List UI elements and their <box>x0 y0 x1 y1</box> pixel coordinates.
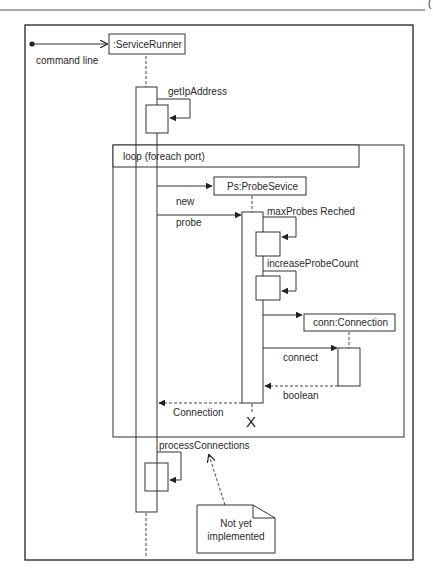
message-label: processConnections <box>159 440 250 451</box>
page-marker: ( <box>428 0 432 9</box>
message-label-connect: connect <box>283 352 318 363</box>
message-label-probe: probe <box>176 217 202 228</box>
lifeline-label-probe-service: Ps:ProbeSevice <box>227 181 299 192</box>
self-call-arrow <box>157 452 181 480</box>
note-text-line2: implemented <box>207 531 264 542</box>
activation-nested <box>256 232 280 256</box>
activation-nested <box>146 105 168 133</box>
note-text-line1: Not yet <box>220 518 252 529</box>
message-label: getIpAddress <box>168 86 227 97</box>
sequence-diagram: ( command line :ServiceRunner getIpAddre… <box>0 0 433 584</box>
message-label: maxProbes Reched <box>267 206 355 217</box>
message-getipaddress: getIpAddress <box>146 86 227 133</box>
activation-nested <box>256 276 280 300</box>
entry-label: command line <box>36 55 99 66</box>
destroy-marker-icon: X <box>246 413 256 430</box>
message-label-boolean: boolean <box>283 390 319 401</box>
note-box <box>197 505 275 553</box>
entry-point: command line <box>29 41 107 66</box>
activation-connection <box>338 348 360 386</box>
message-label-connection: Connection <box>173 407 224 418</box>
loop-label: loop (foreach port) <box>123 151 205 162</box>
lifeline-label-service-runner: :ServiceRunner <box>113 39 183 50</box>
lifeline-connection: conn:Connection connect boolean <box>263 314 395 401</box>
lifeline-probe-service: new Ps:ProbeSevice probe maxProbes Reche… <box>157 177 358 430</box>
note-anchor-arrow <box>209 455 225 505</box>
message-processconnections: processConnections <box>145 440 250 491</box>
diagram-frame <box>25 25 413 560</box>
message-label: increaseProbeCount <box>267 258 358 269</box>
message-label-new: new <box>176 196 195 207</box>
lifeline-label-connection: conn:Connection <box>313 317 388 328</box>
note: Not yet implemented <box>197 455 275 553</box>
